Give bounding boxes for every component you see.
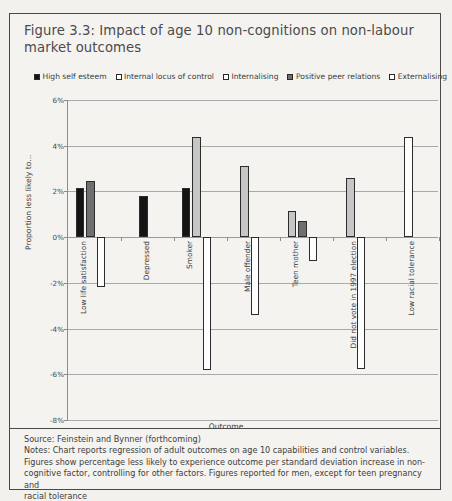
- x-category-label: Depressed: [143, 241, 151, 280]
- y-axis-label: Proportion less likely to...: [24, 155, 33, 250]
- chart-legend: High self esteem Internal locus of contr…: [34, 72, 426, 81]
- white-swatch-icon: [116, 74, 122, 80]
- figure-panel: Figure 3.3: Impact of age 10 non-cogniti…: [9, 13, 441, 490]
- white-swatch-icon: [389, 74, 395, 80]
- legend-item-positive-peer-relations: Positive peer relations: [287, 72, 380, 81]
- x-category-label: Did not vote in 1997 election: [350, 241, 358, 349]
- y-tick-label: 6%: [53, 96, 64, 105]
- bar: [404, 137, 413, 238]
- bar: [309, 237, 318, 261]
- y-tick-label: 2%: [53, 187, 64, 196]
- legend-item-externalising: Externalising: [389, 72, 447, 81]
- footnote-line-1: Notes: Chart reports regression of adult…: [24, 445, 430, 456]
- bar-group: Smoker: [174, 100, 227, 420]
- y-tick-label: -2%: [50, 278, 64, 287]
- legend-item-internal-locus-of-control: Internal locus of control: [116, 72, 214, 81]
- y-tick-label: 0%: [53, 233, 64, 242]
- gray-swatch-icon: [287, 74, 293, 80]
- footnote-line-2: Figures show percentage less likely to e…: [24, 457, 430, 468]
- legend-item-high-self-esteem: High self esteem: [34, 72, 107, 81]
- legend-item-internalising: Internalising: [223, 72, 279, 81]
- bar: [203, 237, 212, 370]
- bar: [240, 166, 249, 237]
- x-axis-label: Outcome: [10, 422, 442, 431]
- footer-divider: [10, 428, 440, 429]
- legend-label: High self esteem: [43, 72, 107, 81]
- footnote-line-4: racial tolerance: [24, 491, 430, 501]
- x-category-label: Low racial tolerance: [408, 241, 416, 315]
- bar: [97, 237, 106, 287]
- figure-footnotes: Source: Feinstein and Bynner (forthcomin…: [24, 434, 430, 501]
- bar: [192, 137, 201, 238]
- x-category-label: Smoker: [186, 241, 194, 269]
- y-tick-mark: [64, 420, 68, 421]
- page-title: Figure 3.3: Impact of age 10 non-cogniti…: [24, 22, 428, 56]
- legend-label: Externalising: [398, 72, 447, 81]
- bar-group: Male offender: [227, 100, 280, 420]
- bar: [298, 221, 307, 237]
- bar: [182, 188, 191, 237]
- bar-group: Low life satisfaction: [68, 100, 121, 420]
- gridline: [68, 420, 438, 421]
- bar: [86, 181, 95, 237]
- bar: [346, 178, 355, 237]
- x-category-label: Teen mother: [292, 241, 300, 287]
- legend-label: Internalising: [231, 72, 278, 81]
- bar-group: Depressed: [121, 100, 174, 420]
- y-tick-label: -6%: [50, 370, 64, 379]
- legend-label: Internal locus of control: [124, 72, 214, 81]
- x-tick-mark: [439, 237, 440, 241]
- y-tick-label: 4%: [53, 141, 64, 150]
- legend-label: Positive peer relations: [296, 72, 380, 81]
- bar-group: Low racial tolerance: [386, 100, 439, 420]
- y-tick-label: -4%: [50, 324, 64, 333]
- footnote-line-3: cognitive factor, controlling for other …: [24, 468, 430, 491]
- x-category-label: Low life satisfaction: [80, 241, 88, 314]
- bar: [139, 196, 148, 237]
- bar: [76, 188, 85, 237]
- white-swatch-icon: [223, 74, 229, 80]
- black-swatch-icon: [34, 74, 40, 80]
- bar-group: Did not vote in 1997 election: [333, 100, 386, 420]
- bar-group: Teen mother: [280, 100, 333, 420]
- x-category-label: Male offender: [244, 241, 252, 292]
- plot-area: 6%4%2%0%-2%-4%-6%-8%Low life satisfactio…: [67, 100, 438, 420]
- footnote-source: Source: Feinstein and Bynner (forthcomin…: [24, 434, 430, 445]
- bar: [288, 211, 297, 237]
